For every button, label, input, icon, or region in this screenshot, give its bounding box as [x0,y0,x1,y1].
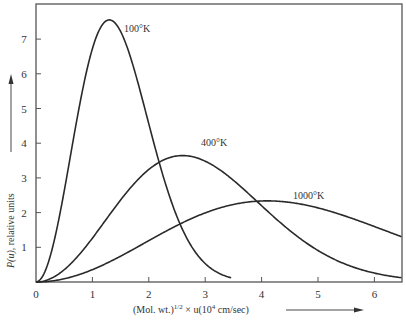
svg-text:P(u), relative units: P(u), relative units [5,193,17,269]
y-axis-label: P(u), relative units [5,74,17,269]
y-tick-label: 1 [21,241,27,253]
x-axis-label: (Mol. wt.)1/2 × u(104 cm/sec) [133,303,364,316]
x-axis-arrow-icon [354,308,364,313]
y-tick-label: 2 [21,207,27,219]
maxwell-distribution-chart: 01234561234567 100°K 400°K 1000°K (Mol. … [0,0,406,328]
curve-label-1000: 1000°K [293,190,325,201]
y-axis-arrow-icon [9,74,14,84]
y-tick-label: 7 [21,33,27,45]
x-tick-label: 6 [372,288,378,300]
x-tick-label: 3 [202,288,208,300]
x-tick-label: 4 [259,288,265,300]
y-tick-label: 5 [21,103,27,115]
y-tick-label: 3 [21,172,27,184]
x-tick-label: 1 [90,288,96,300]
x-tick-label: 0 [33,288,39,300]
curves [36,20,401,282]
y-tick-label: 6 [21,68,27,80]
svg-text:(Mol. wt.)1/2 × u(104 cm/sec): (Mol. wt.)1/2 × u(104 cm/sec) [133,303,249,316]
x-tick-label: 5 [315,288,321,300]
y-tick-label: 4 [21,137,27,149]
curve-400k [36,156,401,282]
curve-label-400: 400°K [201,137,228,148]
curve-100k [36,20,231,282]
curve-label-100: 100°K [124,23,151,34]
x-tick-label: 2 [146,288,152,300]
